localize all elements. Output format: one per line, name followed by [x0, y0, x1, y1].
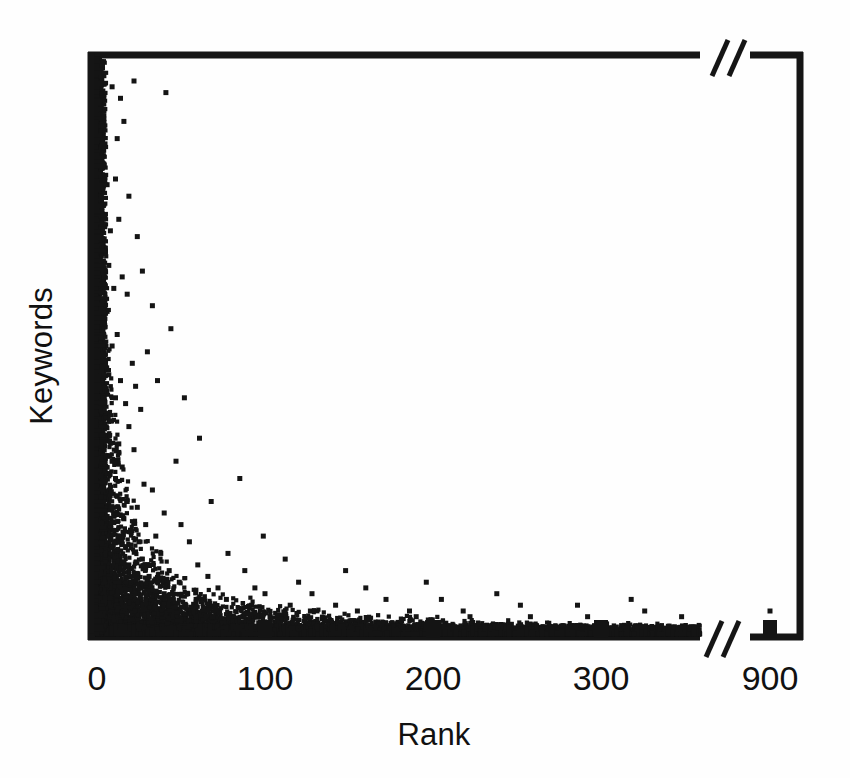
data-point [94, 496, 98, 500]
data-point [94, 484, 99, 488]
data-point [156, 612, 160, 616]
data-point [94, 271, 100, 275]
data-point [123, 401, 128, 406]
data-point [94, 383, 102, 387]
data-point [94, 508, 107, 512]
data-point [113, 470, 117, 474]
data-point [94, 182, 108, 186]
data-point [94, 209, 103, 213]
data-point [435, 615, 439, 619]
data-point [163, 90, 168, 95]
data-point [115, 559, 119, 563]
data-point [238, 615, 242, 619]
data-point [422, 632, 426, 637]
data-point [129, 574, 133, 578]
data-point [490, 632, 494, 636]
data-point [692, 626, 696, 636]
data-point [116, 453, 120, 457]
data-point [208, 624, 212, 637]
data-point [94, 85, 99, 89]
x-tick-label: 900 [742, 659, 799, 697]
data-point [470, 625, 474, 636]
data-point [94, 172, 102, 176]
data-point [201, 618, 205, 622]
data-point [249, 623, 253, 636]
data-point [116, 525, 120, 529]
data-point [94, 159, 102, 163]
data-point [349, 618, 353, 622]
data-point [94, 401, 107, 405]
data-point [94, 573, 99, 577]
data-point [241, 630, 245, 637]
data-point [443, 630, 447, 637]
data-point [132, 79, 137, 84]
data-point [174, 630, 178, 636]
data-point [133, 592, 137, 596]
scatter-plot: 0100200300900 Rank Keywords [0, 0, 850, 778]
data-point [179, 617, 183, 621]
data-point [279, 616, 283, 620]
data-point [686, 632, 690, 636]
data-point [160, 571, 164, 575]
data-point [143, 600, 147, 604]
data-point [302, 630, 306, 637]
data-point [158, 550, 162, 554]
data-point [94, 513, 99, 517]
data-point [94, 590, 99, 594]
data-point [116, 590, 120, 594]
data-point [150, 588, 154, 592]
data-point [121, 536, 125, 540]
data-point [94, 145, 98, 149]
data-point [123, 530, 127, 534]
data-point [182, 395, 187, 400]
data-point [133, 384, 138, 389]
data-point [560, 629, 564, 637]
data-point [354, 632, 358, 637]
data-point [94, 631, 99, 635]
data-point [94, 90, 99, 94]
data-point [144, 581, 148, 585]
data-point [94, 279, 99, 283]
data-point [118, 378, 123, 383]
x-tick-label: 100 [237, 659, 294, 697]
data-point [162, 627, 166, 637]
data-point [118, 566, 122, 570]
data-point [129, 534, 133, 538]
data-point [94, 338, 98, 342]
data-point [252, 585, 257, 590]
data-point [263, 591, 268, 596]
data-point [147, 605, 151, 609]
data-point [151, 568, 155, 572]
x-tick-label: 0 [88, 659, 107, 697]
data-point [120, 274, 125, 279]
data-point [226, 551, 231, 556]
data-point [205, 574, 210, 579]
data-point [125, 611, 129, 615]
data-point [94, 440, 100, 444]
data-point [94, 163, 105, 167]
data-point [117, 496, 121, 500]
data-point [171, 597, 175, 601]
data-point [94, 316, 103, 320]
data-point [115, 548, 119, 552]
data-point [136, 574, 140, 578]
data-point [94, 387, 103, 391]
data-point [155, 378, 160, 383]
data-point [137, 585, 141, 589]
data-point [258, 608, 262, 612]
data-point [236, 605, 240, 609]
data-point [125, 487, 129, 491]
data-point [115, 433, 119, 437]
data-point [118, 581, 122, 585]
data-point [94, 453, 99, 457]
data-point [113, 494, 117, 498]
data-point [152, 611, 156, 615]
data-point [165, 560, 169, 564]
data-point [153, 606, 157, 610]
data-point [494, 591, 499, 596]
data-point [315, 631, 319, 636]
data-point [565, 626, 569, 636]
data-point [376, 630, 380, 636]
data-point [94, 343, 106, 347]
data-point [268, 609, 272, 613]
